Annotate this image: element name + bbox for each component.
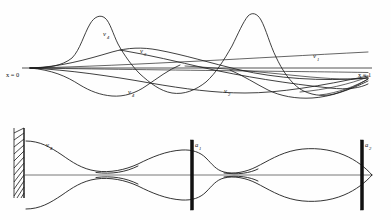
curve-label-v4-peak-sub: 4 — [107, 35, 110, 40]
support-label-a2: a 2 — [365, 141, 372, 151]
axis-label-left: x = 0 — [6, 71, 19, 78]
support-bar-a2 — [361, 140, 364, 210]
beam-mode-label-base: v — [46, 141, 49, 148]
axis-label-right: x = 1 — [358, 71, 371, 78]
figure-root: x = 0 x = 1 v 4 v 3 v 1 v 2 — [0, 0, 391, 220]
beam-envelope-diagram: v 4 a 1 a 2 — [14, 128, 372, 210]
curve-label-v4-peak-base: v — [103, 30, 106, 37]
support-bar-a1 — [191, 140, 194, 210]
support-label-a1: a 1 — [195, 141, 201, 151]
figure-canvas: x = 0 x = 1 v 4 v 3 v 1 v 2 — [0, 0, 391, 220]
curve-label-v2: v 2 — [224, 87, 231, 97]
curve-label-v4-trough-sub: 4 — [132, 93, 135, 98]
support-label-a1-sub: 1 — [199, 146, 201, 151]
curve-v1-mirror — [30, 68, 368, 73]
envelope-lower — [26, 175, 372, 209]
curve-label-v2-base: v — [224, 87, 227, 94]
curve-label-v1: v 1 — [313, 52, 319, 62]
beam-mode-label: v 4 — [46, 141, 53, 151]
beam-mode-label-sub: 4 — [50, 146, 53, 151]
clamped-wall — [14, 128, 24, 198]
eigenfunction-plot: x = 0 x = 1 v 4 v 3 v 1 v 2 — [6, 14, 372, 99]
curve-label-v4-trough-base: v — [128, 88, 131, 95]
curve-label-v4-peak: v 4 — [103, 30, 110, 40]
curve-label-v3-sub: 3 — [144, 52, 147, 57]
curve-label-v1-base: v — [313, 52, 316, 59]
curve-label-v4-trough: v 4 — [128, 88, 135, 98]
support-label-a2-sub: 2 — [369, 146, 372, 151]
curve-label-v1-sub: 1 — [317, 57, 319, 62]
curve-v3 — [30, 48, 368, 79]
curve-label-v3-base: v — [140, 47, 143, 54]
